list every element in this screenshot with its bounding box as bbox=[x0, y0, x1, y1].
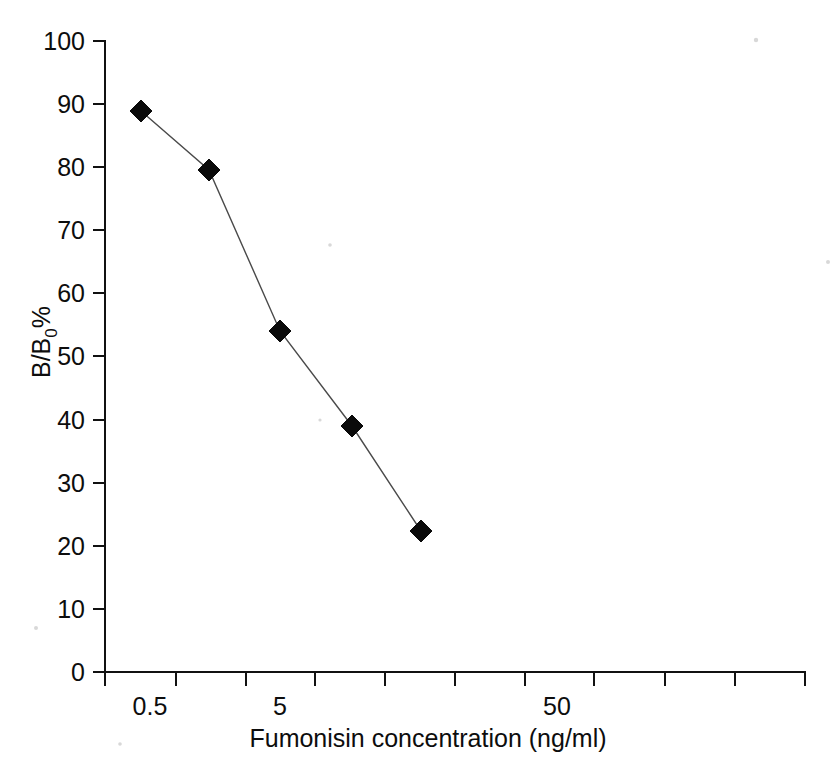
y-tick-label: 0 bbox=[71, 658, 85, 686]
y-axis-title-subscript: 0 bbox=[42, 328, 61, 337]
chart-figure: 0102030405060708090100 0.5550 Fumonisin … bbox=[0, 0, 836, 773]
x-axis-title: Fumonisin concentration (ng/ml) bbox=[249, 724, 606, 752]
y-tick-label: 80 bbox=[57, 153, 85, 181]
scan-speck bbox=[754, 38, 758, 42]
scan-speck bbox=[318, 418, 321, 421]
x-tick-label: 0.5 bbox=[133, 692, 168, 720]
chart-background bbox=[0, 0, 836, 773]
fumonisin-standard-curve-chart: 0102030405060708090100 0.5550 Fumonisin … bbox=[0, 0, 836, 773]
scan-speck bbox=[34, 626, 38, 630]
y-tick-label: 90 bbox=[57, 90, 85, 118]
y-tick-label: 50 bbox=[57, 342, 85, 370]
scan-speck bbox=[328, 243, 332, 247]
y-axis-title-main: B/B bbox=[27, 338, 55, 378]
y-axis-title-suffix: % bbox=[27, 306, 55, 328]
y-tick-label: 100 bbox=[43, 27, 85, 55]
scan-speck bbox=[118, 742, 122, 746]
y-tick-label: 20 bbox=[57, 532, 85, 560]
y-tick-label: 10 bbox=[57, 595, 85, 623]
x-tick-label: 5 bbox=[273, 692, 287, 720]
scan-speck bbox=[826, 260, 830, 264]
y-tick-label: 60 bbox=[57, 279, 85, 307]
y-tick-label: 30 bbox=[57, 469, 85, 497]
x-tick-label: 50 bbox=[543, 692, 571, 720]
y-tick-label: 70 bbox=[57, 216, 85, 244]
y-tick-label: 40 bbox=[57, 406, 85, 434]
